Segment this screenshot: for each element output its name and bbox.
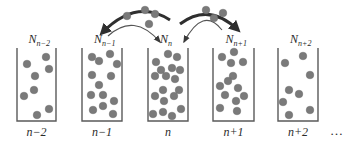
transfer-arrows [102,6,238,42]
particle [20,92,28,100]
particle [149,110,157,118]
state-index-label: n+1 [223,125,243,139]
particle [107,72,115,80]
particle [279,98,287,106]
particle [157,66,165,74]
particle [88,71,96,79]
particle [151,72,159,80]
particle [306,106,314,114]
particle [160,97,168,105]
particle [95,57,103,65]
particle [306,71,314,79]
particle [168,112,176,120]
particle [240,92,248,100]
particle [159,108,167,116]
state-box-n−2: Nn−2n−2 [17,32,56,139]
birth-death-lattice-diagram: Nn−2n−2Nn−1n−1NnnNn+1n+1Nn+2n+2 … [0,0,358,144]
particle [168,64,176,72]
ellipsis-continuation: … [330,123,343,138]
particle [30,86,38,94]
particle [216,104,224,112]
particle [233,107,241,115]
particle [89,106,97,114]
state-box-n−1: Nn−1n−1 [82,32,122,139]
particle [99,102,107,110]
particle [173,53,181,61]
particle [88,53,96,61]
particle [227,59,235,67]
particle [177,105,185,113]
state-box-n+2: Nn+2n+2 [278,32,318,139]
state-index-label: n+2 [288,125,308,139]
moving-particle [202,6,210,14]
particle [109,110,117,118]
particle [176,66,184,74]
particle [45,105,53,113]
particle [234,84,242,92]
moving-particle [123,12,131,20]
particle [23,60,31,68]
particle [285,86,293,94]
particle [170,92,178,100]
state-box-n: Nnn [148,32,188,139]
particle [171,75,179,83]
moving-particle [145,20,153,28]
particle [159,86,167,94]
particle [87,91,95,99]
thick-arrow [102,12,170,33]
population-label: Nn−1 [93,32,115,48]
state-boxes: Nn−2n−2Nn−1n−1NnnNn+1n+1Nn+2n+2 [17,32,318,139]
particle [295,90,303,98]
moving-particle [210,14,218,22]
particle [95,81,103,89]
thick-arrow [180,14,238,30]
thin-arrow [108,25,160,42]
particle [239,58,247,66]
particle [110,97,118,105]
state-index-label: n [165,125,171,139]
particle [281,59,289,67]
population-label: Nn [159,32,172,48]
state-box-n+1: Nn+1n+1 [213,32,254,139]
particle [230,48,238,56]
particle [224,77,232,85]
particle [151,92,159,100]
state-index-label: n−2 [26,125,46,139]
population-label: Nn+1 [225,32,247,48]
particle [99,91,107,99]
particle [42,53,50,61]
particle [164,50,172,58]
particle [31,72,39,80]
moving-particle [141,6,149,14]
particle [218,53,226,61]
particle [175,86,183,94]
particle [152,58,160,66]
particle [232,97,240,105]
particle [113,60,121,68]
moving-particle [219,9,227,17]
population-label: Nn+2 [289,32,311,48]
particle [45,65,53,73]
thin-arrow [184,20,222,42]
particle [299,52,307,60]
particle [33,111,41,119]
moving-particle [151,10,159,18]
particle [216,82,224,90]
particle [221,91,229,99]
particle [162,72,170,80]
particle [285,111,293,119]
state-index-label: n−1 [92,125,112,139]
particle [106,50,114,58]
population-label: Nn−2 [28,32,50,48]
